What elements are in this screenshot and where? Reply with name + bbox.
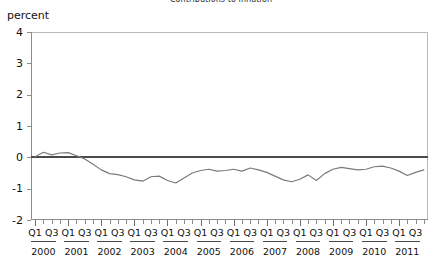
year-group-rule xyxy=(97,241,122,242)
x-axis-quarter-label: Q1 xyxy=(357,227,375,238)
x-axis-tick xyxy=(283,220,284,224)
x-axis-tick xyxy=(366,220,367,226)
x-axis-tick xyxy=(134,220,135,226)
x-axis-quarter-label: Q3 xyxy=(109,227,127,238)
x-axis-ticks xyxy=(31,220,429,227)
y-axis-tick xyxy=(27,126,31,127)
x-axis-tick xyxy=(167,220,168,226)
x-axis-tick xyxy=(258,220,259,224)
x-axis-year-groups: 2000200120022003200420052006200720082009… xyxy=(0,241,442,265)
y-axis-tick-label: -1 xyxy=(0,183,23,194)
chart-title-text: Contributions to inflation xyxy=(0,0,442,5)
x-axis-tick xyxy=(383,220,384,224)
x-axis-tick xyxy=(225,220,226,224)
y-axis-tick-label: 2 xyxy=(0,89,23,100)
x-axis-quarter-label: Q3 xyxy=(340,227,358,238)
y-axis-tick-label: -2 xyxy=(0,215,23,226)
x-axis-tick xyxy=(234,220,235,226)
chart-page: Contributions to inflation percent 43210… xyxy=(0,0,442,273)
x-axis-tick xyxy=(201,220,202,226)
x-axis-tick xyxy=(43,220,44,224)
plot-area xyxy=(31,32,428,220)
year-group-rule xyxy=(130,241,155,242)
x-axis-quarter-label: Q1 xyxy=(59,227,77,238)
y-axis-tick-label: 3 xyxy=(0,58,23,69)
x-axis-tick xyxy=(184,220,185,224)
y-axis-tick xyxy=(27,189,31,190)
x-axis-tick xyxy=(60,220,61,224)
y-axis-tick xyxy=(27,157,31,158)
x-axis-tick xyxy=(325,220,326,224)
x-axis-tick xyxy=(151,220,152,224)
year-group-rule xyxy=(31,241,56,242)
x-axis-tick xyxy=(333,220,334,226)
x-axis-quarter-label: Q3 xyxy=(76,227,94,238)
x-axis-tick xyxy=(35,220,36,226)
x-axis-tick xyxy=(416,220,417,224)
x-axis-tick xyxy=(399,220,400,226)
x-axis-tick xyxy=(316,220,317,224)
y-axis-tick xyxy=(27,95,31,96)
year-group-rule xyxy=(230,241,255,242)
x-axis-quarter-label: Q1 xyxy=(291,227,309,238)
x-axis-tick xyxy=(292,220,293,224)
x-axis-quarter-label: Q3 xyxy=(374,227,392,238)
x-axis-tick xyxy=(300,220,301,226)
x-axis-quarter-label: Q1 xyxy=(225,227,243,238)
x-axis-quarter-label: Q1 xyxy=(192,227,210,238)
y-axis-unit-label: percent xyxy=(7,10,49,22)
x-axis-tick xyxy=(159,220,160,224)
x-axis-tick xyxy=(341,220,342,224)
year-group-rule xyxy=(197,241,222,242)
x-axis-quarter-labels: Q1Q3Q1Q3Q1Q3Q1Q3Q1Q3Q1Q3Q1Q3Q1Q3Q1Q3Q1Q3… xyxy=(0,227,442,240)
x-axis-tick xyxy=(209,220,210,224)
x-axis-quarter-label: Q1 xyxy=(26,227,44,238)
year-group-rule xyxy=(163,241,188,242)
x-axis-tick xyxy=(358,220,359,224)
year-group-rule xyxy=(329,241,354,242)
x-axis-quarter-label: Q3 xyxy=(307,227,325,238)
x-axis-tick xyxy=(68,220,69,226)
year-group-rule xyxy=(263,241,288,242)
x-axis-quarter-label: Q3 xyxy=(208,227,226,238)
x-axis-tick xyxy=(176,220,177,224)
x-axis-tick xyxy=(93,220,94,224)
year-group-rule xyxy=(395,241,420,242)
x-axis-tick xyxy=(76,220,77,224)
y-axis-tick xyxy=(27,63,31,64)
x-axis-tick xyxy=(143,220,144,224)
x-axis-quarter-label: Q3 xyxy=(175,227,193,238)
x-axis-tick xyxy=(242,220,243,224)
x-axis-quarter-label: Q3 xyxy=(241,227,259,238)
x-axis-tick xyxy=(85,220,86,224)
x-axis-quarter-label: Q3 xyxy=(142,227,160,238)
x-axis-tick xyxy=(217,220,218,224)
x-axis-tick xyxy=(308,220,309,224)
x-axis-tick xyxy=(349,220,350,224)
x-axis-quarter-label: Q1 xyxy=(390,227,408,238)
y-axis-tick-label: 0 xyxy=(0,152,23,163)
x-axis-tick xyxy=(407,220,408,224)
x-axis-tick xyxy=(192,220,193,224)
x-axis-quarter-label: Q3 xyxy=(274,227,292,238)
x-axis-quarter-label: Q3 xyxy=(407,227,425,238)
x-axis-quarter-label: Q1 xyxy=(125,227,143,238)
x-axis-tick xyxy=(101,220,102,226)
y-axis-tick-label: 1 xyxy=(0,121,23,132)
x-axis-tick xyxy=(110,220,111,224)
x-axis-tick xyxy=(126,220,127,224)
x-axis-tick xyxy=(118,220,119,224)
x-axis-quarter-label: Q1 xyxy=(92,227,110,238)
x-axis-quarter-label: Q1 xyxy=(324,227,342,238)
x-axis-tick xyxy=(275,220,276,224)
y-axis-tick-label: 4 xyxy=(0,27,23,38)
y-axis-tick xyxy=(27,32,31,33)
x-axis-tick xyxy=(52,220,53,224)
x-axis-tick xyxy=(250,220,251,224)
chart-title-clipped: Contributions to inflation xyxy=(0,0,442,5)
x-axis-quarter-label: Q1 xyxy=(158,227,176,238)
x-axis-tick xyxy=(391,220,392,224)
year-group-rule xyxy=(296,241,321,242)
series-line-contribution xyxy=(31,32,428,220)
x-axis-year-label: 2011 xyxy=(387,246,427,257)
